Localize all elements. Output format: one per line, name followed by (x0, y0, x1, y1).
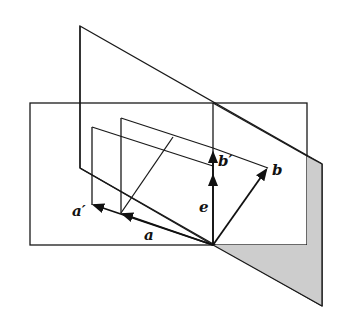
label-a: a (144, 226, 154, 244)
label-e: e (199, 198, 209, 216)
horizontal-plane (30, 103, 307, 245)
label-a-prime: a′ (72, 202, 86, 220)
construction-diagonal (121, 137, 173, 213)
tilted-plane-front (80, 26, 322, 306)
label-b-prime: b′ (218, 152, 232, 170)
vector-b (213, 170, 266, 245)
vector-projection-diagram: a′ a e b′ b (0, 0, 349, 331)
tilted-plane-top-edge-front (213, 103, 307, 156)
label-b: b (272, 161, 283, 179)
